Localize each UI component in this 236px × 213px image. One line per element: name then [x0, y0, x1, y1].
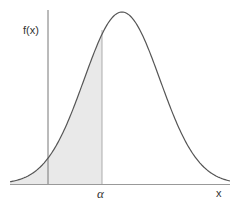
density-curve [10, 12, 230, 182]
shaded-area [10, 34, 102, 184]
y-axis-label: f(x) [23, 25, 39, 36]
alpha-tick-label: α [97, 187, 104, 200]
x-axis-label: x [216, 188, 222, 199]
